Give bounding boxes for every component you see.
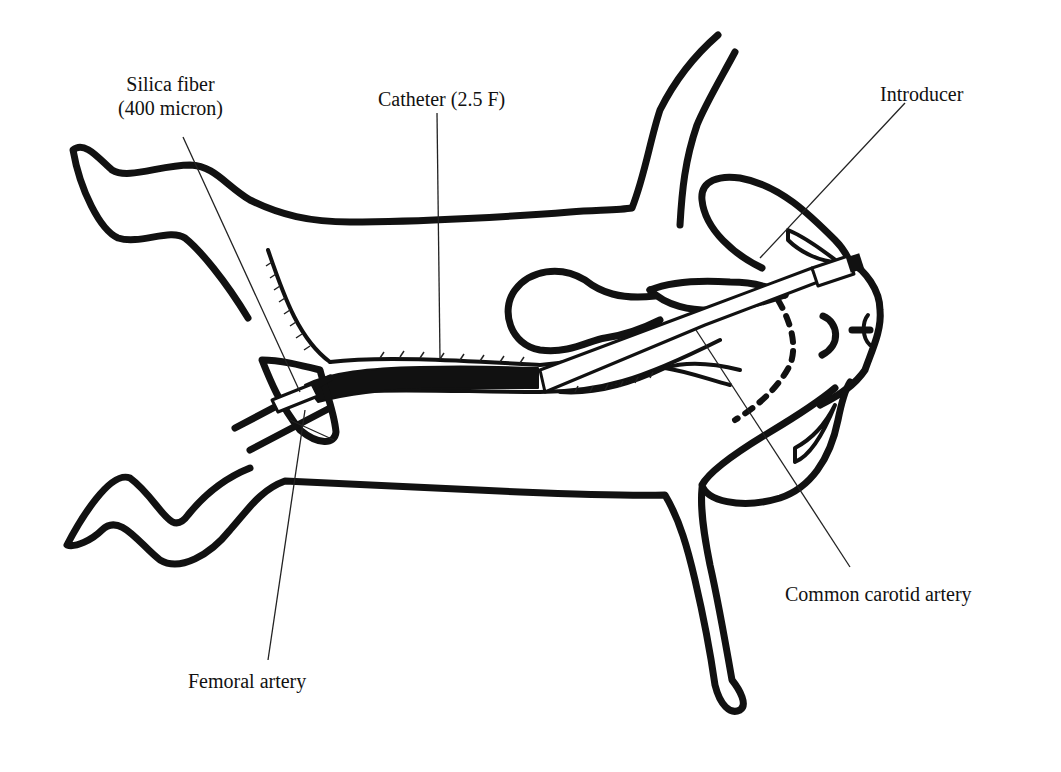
- common-carotid-artery-label: Common carotid artery: [785, 582, 972, 606]
- silica-fiber-label-line1: Silica fiber: [118, 72, 223, 96]
- femoral-incision: [235, 360, 336, 450]
- catheter-label: Catheter (2.5 F): [378, 87, 505, 111]
- catheter: [305, 367, 538, 402]
- introducer-label: Introducer: [880, 82, 963, 106]
- femoral-artery-label: Femoral artery: [188, 669, 306, 693]
- silica-fiber-label: Silica fiber (400 micron): [118, 72, 223, 120]
- head: [702, 177, 880, 503]
- silica-fiber-label-line2: (400 micron): [118, 96, 223, 120]
